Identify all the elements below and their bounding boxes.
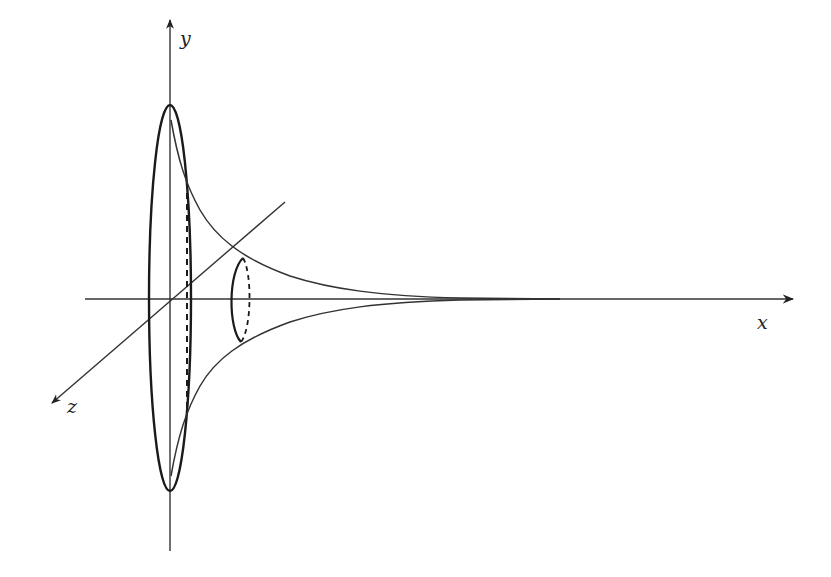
upper-profile-curve <box>171 120 560 299</box>
x-axis-label: x <box>757 311 768 333</box>
y-axis-label: y <box>179 27 191 49</box>
small-section-back <box>241 258 250 342</box>
z-axis-label: z <box>66 395 78 417</box>
horn-surface-diagram: y x z <box>0 0 831 577</box>
small-section-front <box>231 258 243 342</box>
lower-profile-curve <box>171 299 560 476</box>
